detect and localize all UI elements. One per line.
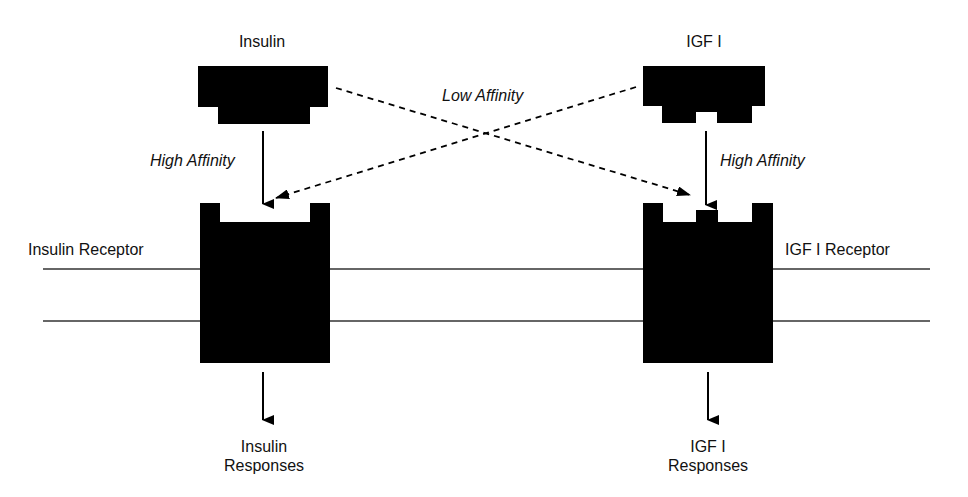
insulin-responses-line2: Responses — [224, 456, 304, 475]
insulin-responses-line1: Insulin — [224, 437, 304, 456]
igf1-ligand-shape — [643, 66, 765, 123]
cell-membrane — [43, 269, 930, 321]
igf1-responses-line2: Responses — [668, 456, 748, 475]
low-affinity-label: Low Affinity — [442, 86, 523, 105]
igf1-receptor-label: IGF I Receptor — [785, 240, 890, 259]
insulin-ligand-shape — [198, 66, 328, 124]
igf1-receptor-shape — [643, 203, 773, 363]
igf1-responses-line1: IGF I — [668, 437, 748, 456]
insulin-responses-label: Insulin Responses — [224, 437, 304, 475]
insulin-ligand-label: Insulin — [239, 32, 285, 51]
insulin-receptor-label: Insulin Receptor — [28, 240, 144, 259]
igf1-responses-label: IGF I Responses — [668, 437, 748, 475]
igf1-ligand-label: IGF I — [686, 32, 722, 51]
insulin-high-affinity-label: High Affinity — [150, 151, 235, 170]
igf1-high-affinity-label: High Affinity — [720, 151, 805, 170]
insulin-receptor-shape — [200, 203, 330, 363]
